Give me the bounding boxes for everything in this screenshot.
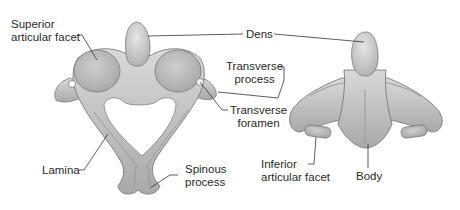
label-transverse-foramen: Transverse foramen	[230, 104, 287, 130]
label-spinous-process: Spinous process	[185, 163, 227, 189]
leader-dens	[148, 34, 243, 36]
left-superior-facet-shape	[74, 50, 120, 92]
right-superior-facet-shape	[155, 50, 201, 92]
dens-shape-left	[125, 22, 150, 66]
leader-lamina	[78, 134, 108, 170]
label-dens: Dens	[246, 28, 273, 41]
label-superior-articular-facet: Superior articular facet	[11, 18, 80, 44]
anterior-view-vertebra	[290, 32, 443, 148]
label-transverse-process: Transverse process	[226, 60, 283, 86]
leader-dens-right	[274, 34, 364, 42]
left-inferior-facet-shape	[304, 124, 331, 139]
label-body: Body	[356, 170, 382, 183]
label-lamina: Lamina	[42, 164, 80, 177]
left-transverse-foramen-shape	[69, 81, 76, 88]
label-inferior-articular-facet: Inferior articular facet	[261, 158, 330, 184]
right-inferior-facet-shape	[400, 124, 427, 139]
dens-shape-right	[352, 32, 378, 76]
